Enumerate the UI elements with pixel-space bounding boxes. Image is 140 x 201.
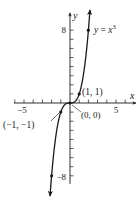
- y-tick-label-neg8: −8: [56, 172, 66, 182]
- point-label-neg1-neg1: (−1, −1): [3, 120, 34, 131]
- leader-line-origin: [72, 105, 81, 112]
- data-point: [59, 111, 62, 114]
- data-point: [50, 174, 53, 177]
- equation-equals: =: [98, 25, 108, 35]
- curve-equation-label: y = x3: [93, 23, 116, 35]
- cubic-function-graph: x y −5 5 8 −8 y = x3 (1, 1) (0, 0) (−1, …: [0, 0, 140, 201]
- point-label-1-1: (1, 1): [82, 87, 103, 98]
- point-label-0-0: (0, 0): [81, 110, 101, 120]
- data-point: [68, 101, 71, 104]
- leader-line-neg1-neg1: [51, 113, 59, 121]
- x-axis-label: x: [129, 90, 135, 101]
- data-point: [78, 92, 81, 95]
- y-axis-label: y: [72, 10, 78, 21]
- x-tick-label-neg5: −5: [17, 105, 27, 115]
- x-tick-label-5: 5: [114, 105, 119, 115]
- equation-exponent: 3: [113, 23, 116, 30]
- data-point: [87, 29, 90, 32]
- y-tick-label-8: 8: [62, 25, 67, 35]
